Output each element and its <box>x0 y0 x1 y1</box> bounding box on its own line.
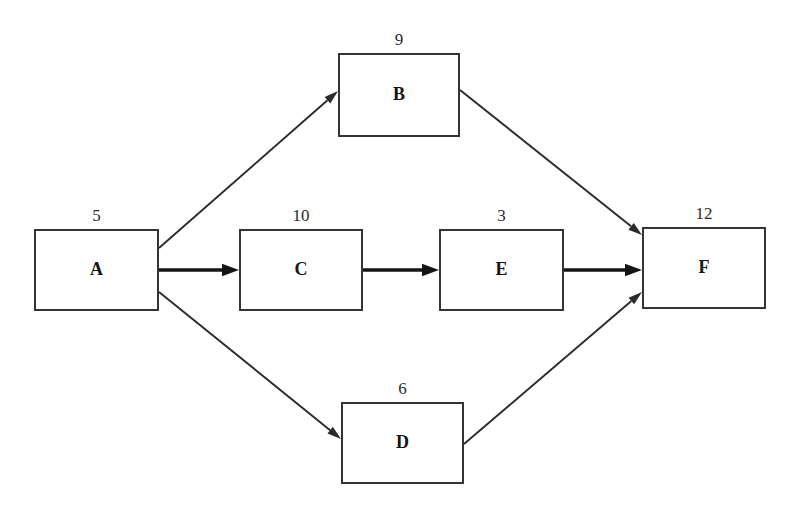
edge-line-a-b <box>159 100 327 248</box>
network-diagram-svg: A5B9C10D6E3F12 <box>0 0 799 510</box>
arrowhead-icon-a-c <box>222 264 239 276</box>
node-label-f: F <box>699 257 710 277</box>
edge-a-to-c <box>159 264 239 276</box>
edge-a-to-d <box>159 292 341 439</box>
node-duration-f: 12 <box>696 204 713 223</box>
edge-d-to-f <box>464 292 642 444</box>
node-duration-c: 10 <box>293 206 310 225</box>
node-label-c: C <box>295 259 308 279</box>
node-label-e: E <box>495 259 507 279</box>
node-c[interactable]: C10 <box>240 206 362 310</box>
node-duration-a: 5 <box>92 206 101 225</box>
nodes-layer: A5B9C10D6E3F12 <box>35 30 765 483</box>
node-e[interactable]: E3 <box>440 206 563 310</box>
node-label-b: B <box>393 84 405 104</box>
node-duration-d: 6 <box>398 379 407 398</box>
arrowhead-icon-e-f <box>625 264 642 276</box>
edge-line-a-d <box>159 292 330 430</box>
edge-line-d-f <box>464 301 631 444</box>
node-a[interactable]: A5 <box>35 206 158 310</box>
node-duration-b: 9 <box>395 30 404 49</box>
node-f[interactable]: F12 <box>643 204 765 308</box>
arrowhead-icon-c-e <box>422 264 439 276</box>
edge-b-to-f <box>460 90 642 235</box>
node-label-a: A <box>90 259 103 279</box>
edge-a-to-b <box>159 91 338 248</box>
node-b[interactable]: B9 <box>339 30 459 136</box>
node-d[interactable]: D6 <box>342 379 463 483</box>
edge-line-b-f <box>460 90 631 226</box>
node-label-d: D <box>396 432 409 452</box>
edge-c-to-e <box>363 264 439 276</box>
node-duration-e: 3 <box>497 206 506 225</box>
network-diagram-canvas: A5B9C10D6E3F12 <box>0 0 799 510</box>
edge-e-to-f <box>564 264 642 276</box>
